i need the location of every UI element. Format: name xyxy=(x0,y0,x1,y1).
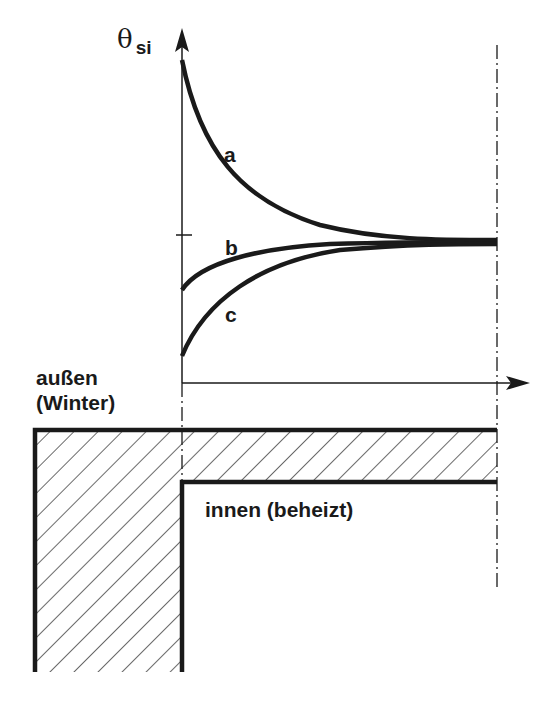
wall-section xyxy=(35,430,497,672)
wall-corner-temperature-diagram xyxy=(0,0,558,706)
curve-b-label: b xyxy=(225,236,238,260)
theta-symbol: θ xyxy=(117,24,133,54)
outside-label-line1: außen xyxy=(36,365,115,390)
y-axis-label: θsi xyxy=(117,24,149,54)
inside-label: innen (beheizt) xyxy=(205,497,353,522)
curve-c-label: c xyxy=(225,303,237,327)
curve-a-label: a xyxy=(224,143,236,167)
outside-label-line2: (Winter) xyxy=(36,390,115,415)
outside-label: außen (Winter) xyxy=(36,365,115,415)
theta-subscript: si xyxy=(136,37,152,58)
